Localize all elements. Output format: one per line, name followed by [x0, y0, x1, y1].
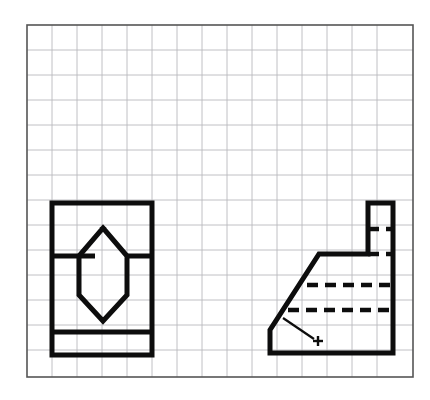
sketch-page — [0, 0, 430, 400]
orthographic-drawing — [0, 0, 430, 400]
